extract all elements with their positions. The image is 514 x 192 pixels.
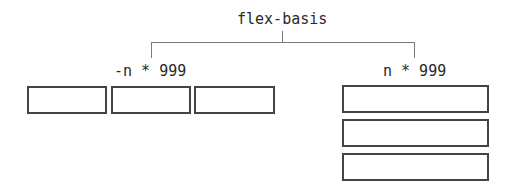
row-box-1 (27, 86, 107, 114)
row-box-3 (194, 86, 275, 114)
bracket-bar (151, 42, 415, 43)
column-box-3 (342, 153, 489, 181)
column-box-2 (342, 119, 489, 147)
branch-label-negative: -n * 999 (114, 62, 186, 80)
column-box-1 (342, 85, 489, 113)
branch-label-positive: n * 999 (383, 62, 446, 80)
bracket-left-drop (151, 42, 152, 58)
diagram-title: flex-basis (237, 10, 327, 28)
bracket-right-drop (414, 42, 415, 58)
row-box-2 (111, 86, 191, 114)
